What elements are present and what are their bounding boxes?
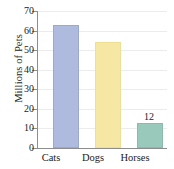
y-tick-label-50: 50 [10,45,34,55]
bar-dogs [95,42,121,148]
x-label-cats: Cats [28,151,74,165]
bars-group [37,11,167,148]
bar-horses [137,123,163,149]
bar-chart: Millions of Pets 70 60 50 40 30 20 10 0 … [0,0,174,169]
y-tick-label-60: 60 [10,26,34,36]
bar-cats [53,25,79,148]
x-label-horses: Horses [112,151,158,165]
x-label-dogs: Dogs [70,151,116,165]
y-tick-label-20: 20 [10,104,34,114]
y-tick-label-70: 70 [10,6,34,16]
y-tick-label-10: 10 [10,123,34,133]
plot-area [37,11,167,148]
x-axis-line [37,148,167,149]
y-tick-label-40: 40 [10,65,34,75]
data-label-horses: 12 [134,112,164,122]
y-tick-label-30: 30 [10,84,34,94]
